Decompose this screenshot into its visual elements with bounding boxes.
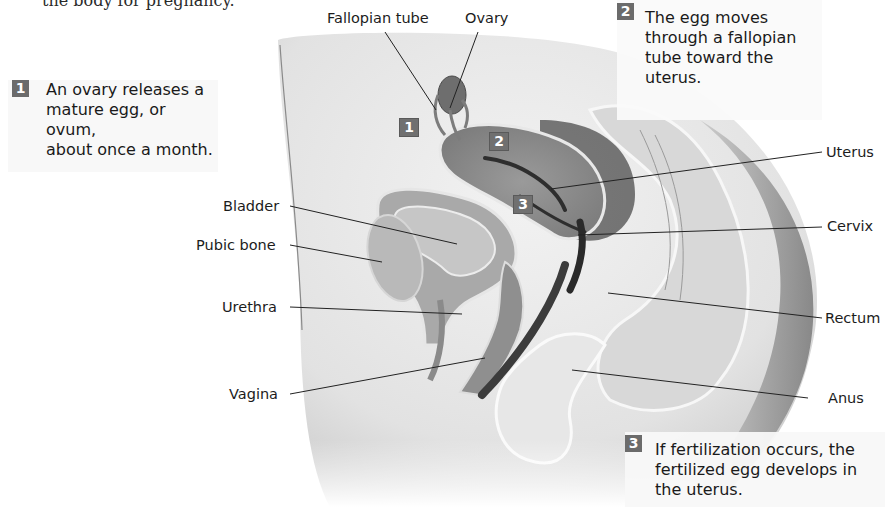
label-pubic-bone: Pubic bone <box>196 238 276 253</box>
step-1-badge: 1 <box>12 80 29 97</box>
step-2-badge: 2 <box>617 3 634 20</box>
diagram-marker-3: 3 <box>513 195 533 214</box>
label-bladder: Bladder <box>223 199 279 214</box>
label-ovary: Ovary <box>465 11 508 26</box>
step-1-callout: 1 An ovary releases a mature egg, or ovu… <box>8 80 218 172</box>
step-1-text: An ovary releases a mature egg, or ovum,… <box>46 80 218 160</box>
label-vagina: Vagina <box>229 387 278 402</box>
step-2-text: The egg moves through a fallopian tube t… <box>645 8 797 88</box>
label-rectum: Rectum <box>825 311 880 326</box>
step-2-callout: 2 The egg moves through a fallopian tube… <box>617 0 822 120</box>
diagram-marker-1: 1 <box>399 118 419 137</box>
label-urethra: Urethra <box>222 300 277 315</box>
label-fallopian-tube: Fallopian tube <box>327 11 429 26</box>
step-3-badge: 3 <box>625 435 642 452</box>
step-3-text: If fertilization occurs, the fertilized … <box>655 440 857 500</box>
step-3-callout: 3 If fertilization occurs, the fertilize… <box>625 432 885 507</box>
label-uterus: Uterus <box>826 145 874 160</box>
label-anus: Anus <box>828 391 864 406</box>
diagram-marker-2: 2 <box>489 132 509 151</box>
label-cervix: Cervix <box>827 219 873 234</box>
